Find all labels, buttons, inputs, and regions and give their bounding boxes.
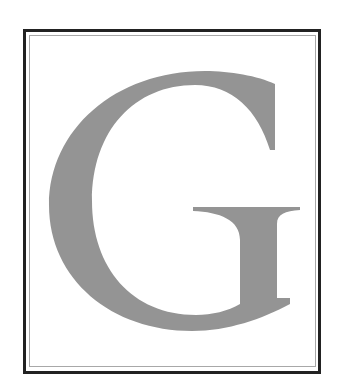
letter-g-shape [49,71,300,331]
letter-g-glyph [0,0,361,386]
